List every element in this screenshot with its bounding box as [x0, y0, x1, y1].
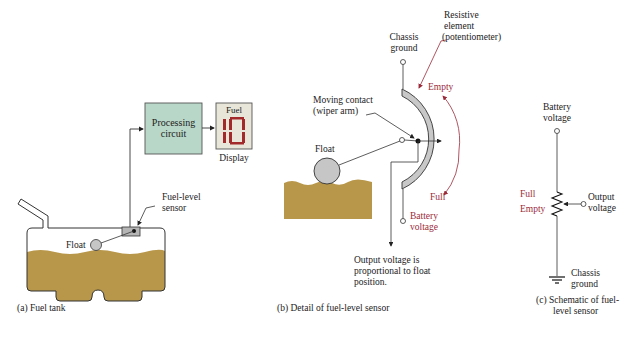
- resistive-line1: Resistive: [444, 10, 501, 21]
- display-title: Fuel: [216, 105, 252, 116]
- display-label: Display: [212, 153, 256, 164]
- chassis-ground-label-c: Chassis ground: [571, 268, 600, 290]
- resistive-element-label: Resistive element (potentiometer): [444, 10, 501, 43]
- output-note-line3: position.: [354, 277, 431, 288]
- chassis-c-line2: ground: [571, 279, 600, 290]
- sensor-label: Fuel-level sensor: [162, 192, 201, 214]
- empty-label-c: Empty: [520, 204, 545, 215]
- moving-line2: (wiper arm): [313, 106, 373, 117]
- fuel-sample: [284, 180, 372, 220]
- full-label-c: Full: [520, 189, 535, 200]
- float-ball-icon: [314, 158, 340, 184]
- resistive-line3: (potentiometer): [442, 32, 501, 43]
- battery-line1: Battery: [410, 211, 438, 222]
- output-voltage-label-c: Output voltage: [588, 192, 616, 214]
- float-label-b: Float: [315, 144, 335, 155]
- caption-c-line1: (c) Schematic of fuel-: [536, 295, 619, 306]
- full-label-b: Full: [430, 192, 445, 203]
- sensor-label-line1: Fuel-level: [162, 192, 201, 203]
- moving-line1: Moving contact: [313, 95, 373, 106]
- chassis-line1: Chassis: [385, 32, 423, 43]
- sensor-label-line2: sensor: [162, 203, 201, 214]
- output-note-line1: Output voltage is: [354, 255, 431, 266]
- battery-c-line1: Battery: [537, 102, 577, 113]
- chassis-line2: ground: [385, 43, 423, 54]
- caption-a: (a) Fuel tank: [17, 303, 66, 314]
- processing-circuit-label: Processing circuit: [145, 117, 202, 139]
- caption-c: (c) Schematic of fuel- level sensor: [536, 295, 619, 317]
- chassis-ground-label-b: Chassis ground: [385, 32, 423, 54]
- caption-c-line2: level sensor: [536, 306, 619, 317]
- resistive-line2: element: [444, 21, 501, 32]
- diagram-graphics: [0, 0, 631, 339]
- battery-voltage-label-c: Battery voltage: [537, 102, 577, 124]
- output-voltage-note: Output voltage is proportional to float …: [354, 255, 431, 288]
- empty-label-b: Empty: [428, 82, 453, 93]
- processing-label-line1: Processing: [145, 117, 202, 128]
- float-label-a: Float: [66, 240, 86, 251]
- output-note-line2: proportional to float: [354, 266, 431, 277]
- float-icon: [91, 240, 102, 251]
- resistor-icon: [552, 192, 562, 216]
- processing-label-line2: circuit: [145, 128, 202, 139]
- caption-b: (b) Detail of fuel-level sensor: [277, 303, 389, 314]
- chassis-c-line1: Chassis: [571, 268, 600, 279]
- battery-line2: voltage: [410, 222, 438, 233]
- battery-c-line2: voltage: [537, 113, 577, 124]
- moving-contact-label: Moving contact (wiper arm): [313, 95, 373, 117]
- battery-voltage-label-b: Battery voltage: [410, 211, 438, 233]
- output-c-line2: voltage: [588, 203, 616, 214]
- output-c-line1: Output: [588, 192, 616, 203]
